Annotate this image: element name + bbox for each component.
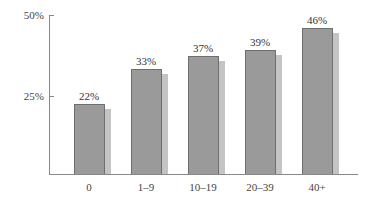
y-tick-label-50: 50% [4,9,44,21]
x-tick-label: 0 [64,181,114,193]
x-tick-label: 1–9 [121,181,171,193]
y-tick-25 [49,96,54,97]
bar-value-label: 22% [64,90,114,102]
bar [245,50,276,174]
bar [131,69,162,174]
y-axis [49,15,50,174]
y-tick-50 [49,15,54,16]
bar-value-label: 46% [292,14,342,26]
bar [302,28,333,174]
x-tick-label: 20–39 [235,181,285,193]
bar-value-label: 37% [178,42,228,54]
bar-value-label: 39% [235,36,285,48]
bar [74,104,105,174]
x-axis [49,174,358,175]
x-tick-label: 40+ [292,181,342,193]
x-tick-label: 10–19 [178,181,228,193]
bar-value-label: 33% [121,55,171,67]
bar [188,56,219,174]
y-tick-label-25: 25% [4,90,44,102]
